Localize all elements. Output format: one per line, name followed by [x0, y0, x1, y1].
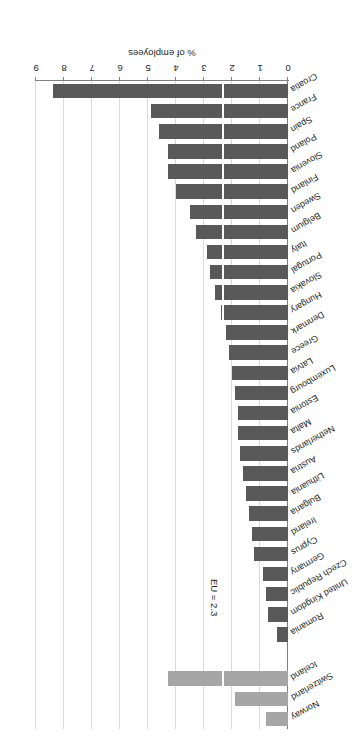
category-label-italy: Italy	[289, 238, 308, 255]
axis-tick-label: 5	[136, 63, 160, 74]
axis-tick	[175, 77, 176, 81]
axis-tick	[203, 77, 204, 81]
eu-average-label: EU = 2.3	[209, 579, 220, 616]
category-label-latvia: Latvia	[289, 355, 315, 376]
category-label-croatia: Croatia	[289, 71, 319, 94]
figure-page: Figure 4.3: Precarious employment, 2016 …	[0, 0, 364, 755]
axis-tick	[35, 77, 36, 81]
eu-average-line	[222, 81, 224, 729]
axis-tick-label: 1	[248, 63, 272, 74]
plot-area: CroatiaFranceSpainPolandSloveniaFinlandS…	[36, 81, 288, 729]
category-label-france: France	[289, 92, 318, 115]
axis-tick	[147, 77, 148, 81]
axis-tick-label: 8	[52, 63, 76, 74]
axis-tick-label: 2	[220, 63, 244, 74]
axis-tick	[91, 77, 92, 81]
axis-tick-label: 3	[192, 63, 216, 74]
axis-tick-label: 4	[164, 63, 188, 74]
category-label-spain: Spain	[289, 114, 314, 134]
axis-tick-label: 6	[108, 63, 132, 74]
axis-tick	[231, 77, 232, 81]
axis-tick-label: 9	[24, 63, 48, 74]
rotated-figure-wrapper: Figure 4.3: Precarious employment, 2016 …	[0, 0, 364, 755]
axis-tick	[287, 77, 288, 81]
axis-tick-label: 7	[80, 63, 104, 74]
axis-tick	[259, 77, 260, 81]
category-labels: CroatiaFranceSpainPolandSloveniaFinlandS…	[36, 81, 288, 729]
value-axis-title: % of employees	[36, 48, 288, 59]
category-label-malta: Malta	[289, 417, 313, 437]
axis-tick	[63, 77, 64, 81]
axis-tick-label: 0	[276, 63, 300, 74]
bar-chart-figure: Figure 4.3: Precarious employment, 2016 …	[0, 0, 364, 755]
axis-tick	[119, 77, 120, 81]
